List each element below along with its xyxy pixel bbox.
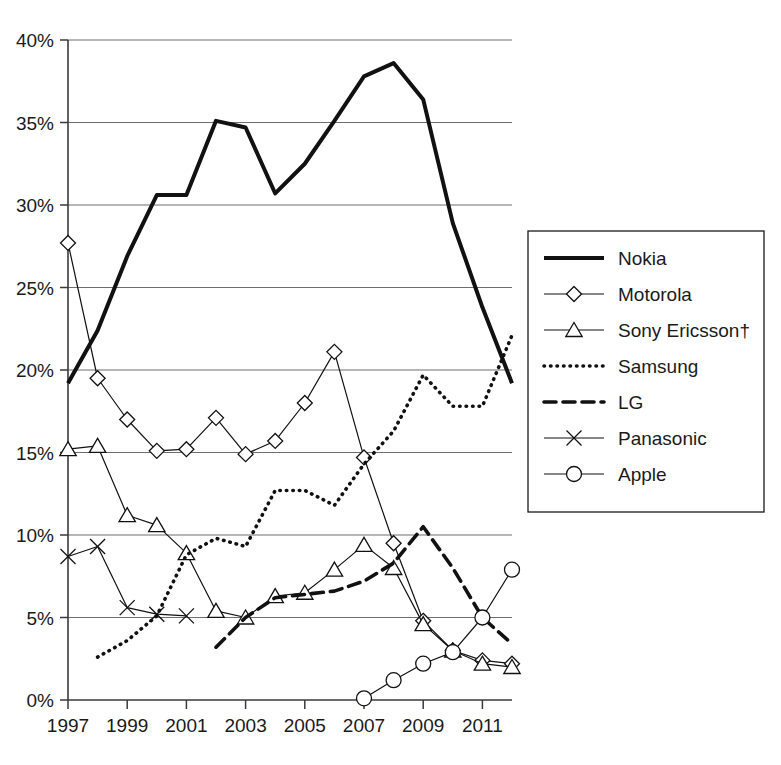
x-axis-tick-labels: 19971999200120032005200720092011 <box>47 715 503 736</box>
y-tick-label: 10% <box>16 525 54 546</box>
y-tick-label: 20% <box>16 360 54 381</box>
y-tick-label: 40% <box>16 30 54 51</box>
data-point-marker-circle <box>505 562 520 577</box>
x-tick-label: 2011 <box>462 715 503 736</box>
cut-off-caption <box>0 0 781 8</box>
data-point-marker-circle <box>416 656 431 671</box>
data-point-marker-circle <box>445 645 460 660</box>
data-point-marker-diamond <box>327 344 342 359</box>
data-point-marker-circle <box>386 673 401 688</box>
data-point-marker-diamond <box>90 371 105 386</box>
x-tick-label: 2009 <box>402 715 444 736</box>
data-point-marker-diamond <box>268 433 283 448</box>
series-layer <box>60 63 520 706</box>
x-tick-label: 1999 <box>106 715 148 736</box>
x-tick-label: 2005 <box>284 715 326 736</box>
legend-label: Motorola <box>618 284 692 305</box>
data-point-marker-circle <box>357 691 372 706</box>
y-tick-label: 30% <box>16 195 54 216</box>
x-tick-label: 1997 <box>47 715 89 736</box>
gridlines-group <box>68 40 512 618</box>
legend-label: Samsung <box>618 356 698 377</box>
series-samsung <box>98 335 512 657</box>
y-tick-label: 15% <box>16 443 54 464</box>
series-apple <box>357 562 520 706</box>
data-point-marker-diamond <box>297 396 312 411</box>
legend-label: Nokia <box>618 248 667 269</box>
x-tick-label: 2003 <box>224 715 266 736</box>
x-tick-label: 2007 <box>343 715 385 736</box>
data-point-marker-diamond <box>238 447 253 462</box>
x-tick-label: 2001 <box>165 715 207 736</box>
data-point-marker-diamond <box>61 235 76 250</box>
legend-label: Apple <box>618 464 667 485</box>
data-point-marker-triangle <box>356 537 372 551</box>
data-point-marker-triangle <box>149 518 165 532</box>
data-point-marker-circle <box>567 467 582 482</box>
series-line <box>68 547 186 616</box>
data-point-marker-triangle <box>89 438 105 452</box>
data-point-marker-cross <box>120 600 135 615</box>
legend-label: LG <box>618 392 643 413</box>
data-point-marker-diamond <box>386 536 401 551</box>
data-point-marker-triangle <box>208 603 224 617</box>
series-nokia <box>68 63 512 383</box>
data-point-marker-cross <box>90 539 105 554</box>
y-tick-label: 35% <box>16 113 54 134</box>
legend-label: Panasonic <box>618 428 707 449</box>
legend-label: Sony Ericsson† <box>618 320 750 341</box>
data-point-marker-triangle <box>119 508 135 522</box>
legend-group: NokiaMotorolaSony Ericsson†SamsungLGPana… <box>528 231 764 512</box>
series-line <box>68 63 512 383</box>
y-tick-label: 25% <box>16 278 54 299</box>
y-tick-label: 0% <box>27 690 55 711</box>
y-tick-label: 5% <box>27 608 55 629</box>
market-share-line-chart: 0%5%10%15%20%25%30%35%40% 19971999200120… <box>0 0 781 765</box>
series-line <box>98 335 512 657</box>
data-point-marker-circle <box>475 610 490 625</box>
chart-figure: 0%5%10%15%20%25%30%35%40% 19971999200120… <box>0 0 781 765</box>
y-axis-tick-labels: 0%5%10%15%20%25%30%35%40% <box>16 30 54 711</box>
series-sonyericsson <box>60 438 520 673</box>
